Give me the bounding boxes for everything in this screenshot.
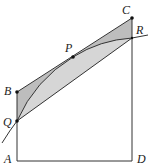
- point-C: [130, 16, 134, 20]
- geometry-diagram: A B Q P C R D: [0, 0, 152, 167]
- label-D: D: [136, 152, 146, 166]
- point-Q: [15, 119, 19, 123]
- point-R: [131, 37, 133, 39]
- label-P: P: [64, 41, 73, 55]
- point-P: [71, 55, 75, 59]
- label-A: A: [3, 152, 12, 166]
- point-B: [15, 90, 19, 94]
- label-R: R: [135, 23, 144, 37]
- label-Q: Q: [3, 115, 12, 129]
- label-B: B: [4, 84, 12, 98]
- chord-QR: [17, 38, 132, 121]
- segment-BC: [17, 18, 132, 92]
- label-C: C: [122, 3, 131, 17]
